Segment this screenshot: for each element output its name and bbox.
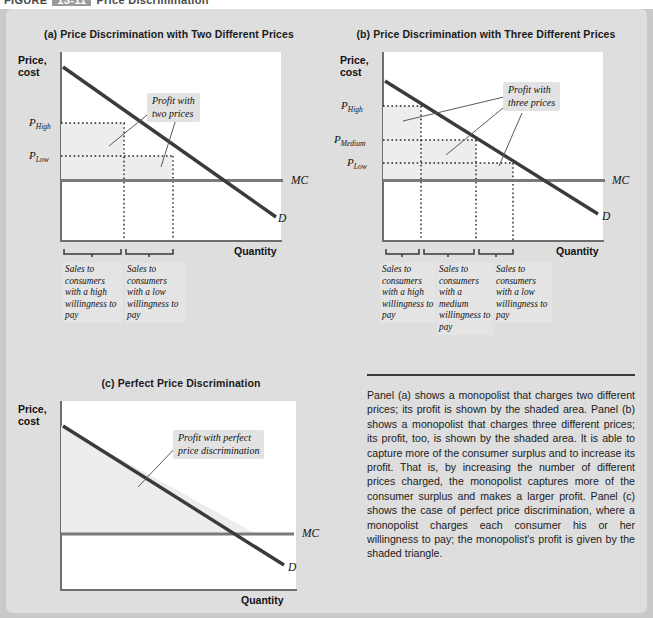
figure-body: (a) Price Discrimination with Two Differ…: [6, 9, 647, 613]
figure-header-title: Price Discrimination: [96, 0, 208, 6]
panel-c-callout-line1: Profit with perfect: [178, 432, 251, 443]
panel-c-callout-line2: price discrimination: [178, 445, 259, 456]
figure-header-label: FIGURE: [4, 0, 47, 6]
figure-header-bar: FIGURE13-11Price Discrimination: [0, 0, 653, 9]
panel-c-demand-label: D: [288, 561, 296, 573]
caption-divider: [367, 374, 635, 376]
panel-c-mc-label: MC: [302, 527, 319, 539]
panel-c-profit-callout: Profit with perfect price discrimination: [173, 430, 264, 459]
figure-header-text: FIGURE13-11Price Discrimination: [4, 0, 209, 6]
figure-caption: Panel (a) shows a monopolist that charge…: [367, 388, 635, 561]
figure-header-number: 13-11: [52, 0, 91, 6]
figure-root: FIGURE13-11Price Discrimination (a) Pric…: [0, 0, 653, 618]
